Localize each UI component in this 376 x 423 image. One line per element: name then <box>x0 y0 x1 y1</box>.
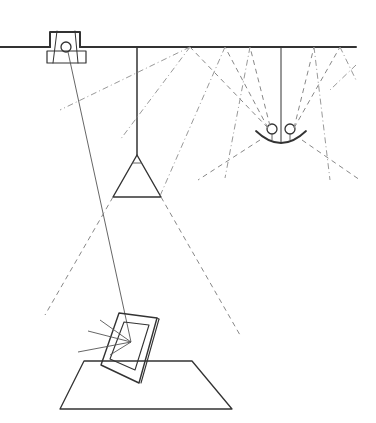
reflected-light-rays <box>60 47 360 196</box>
spotlight-icon <box>47 31 86 63</box>
pendant-light-cone-right <box>161 197 240 335</box>
table-icon <box>60 361 232 409</box>
picture-frame-icon <box>101 313 159 383</box>
lighting-diagram <box>0 0 376 423</box>
pendant-light-cone-left <box>45 197 113 315</box>
uplight-fixture-icon <box>256 47 306 143</box>
pendant-lamp-icon <box>113 47 161 197</box>
